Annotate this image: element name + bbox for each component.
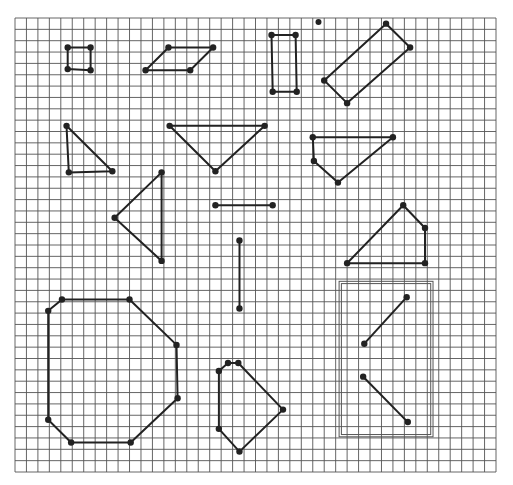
vertex-dot — [216, 426, 222, 432]
shapes-layer — [45, 19, 428, 455]
small-square-outline — [68, 48, 91, 71]
left-pointing-triangle — [111, 169, 164, 264]
vertex-dot — [87, 67, 93, 73]
parallelogram-outline — [146, 48, 214, 71]
vertex-dot — [59, 296, 65, 302]
vertex-dot — [292, 32, 298, 38]
frame-layer — [339, 281, 433, 436]
vertex-dot — [236, 305, 242, 311]
frame-inner — [341, 284, 430, 435]
right-triangle — [63, 123, 115, 176]
octagon — [45, 296, 181, 445]
vertex-dot — [210, 44, 216, 50]
vertex-dot — [236, 448, 242, 454]
vertex-dot — [261, 123, 267, 129]
vertex-dot — [269, 202, 275, 208]
vertex-dot — [68, 439, 74, 445]
stray-dot — [315, 19, 321, 25]
diagonal-segment-up-outline — [364, 297, 406, 344]
vertex-dot — [268, 32, 274, 38]
vertex-dot — [321, 77, 327, 83]
vertex-dot — [212, 168, 218, 174]
vertex-dot — [405, 419, 411, 425]
vertex-dot — [344, 100, 350, 106]
small-square — [64, 44, 93, 73]
vertex-dot — [165, 44, 171, 50]
vertex-dot — [173, 342, 179, 348]
vertex-dot — [142, 67, 148, 73]
vertex-dot — [335, 179, 341, 185]
parallelogram — [142, 44, 216, 73]
vertex-dot — [390, 134, 396, 140]
vertex-dot — [236, 237, 242, 243]
vertex-dot — [422, 225, 428, 231]
vertex-dot — [45, 308, 51, 314]
vertex-dot — [63, 123, 69, 129]
pentagon-upper-right-outline — [313, 137, 393, 182]
vertex-dot — [45, 417, 51, 423]
vertex-dot — [280, 406, 286, 412]
vertex-dot — [400, 202, 406, 208]
vertical-segment — [236, 237, 242, 311]
inverted-triangle-outline — [170, 126, 265, 171]
vertex-dot — [294, 89, 300, 95]
vertex-dot — [127, 439, 133, 445]
vertex-dot — [225, 360, 231, 366]
vertex-dot — [311, 158, 317, 164]
left-pointing-triangle-outline — [115, 172, 162, 261]
octagon-outline — [48, 300, 177, 443]
vertex-dot — [64, 44, 70, 50]
vertex-dot — [310, 134, 316, 140]
vertex-dot — [403, 294, 409, 300]
vertex-dot — [158, 258, 164, 264]
vertex-dot — [212, 202, 218, 208]
vertex-dot — [344, 260, 350, 266]
grid-canvas — [0, 0, 513, 485]
inverted-triangle — [166, 123, 267, 175]
vertex-dot — [407, 44, 413, 50]
pentagon-upper-right — [310, 134, 397, 186]
vertex-dot — [87, 44, 93, 50]
vertex-dot — [111, 215, 117, 221]
vertex-dot — [360, 373, 366, 379]
vertex-dot — [235, 360, 241, 366]
vertex-dot — [174, 395, 180, 401]
vertex-dot — [126, 296, 132, 302]
vertex-dot — [216, 368, 222, 374]
vertex-dot — [66, 169, 72, 175]
vertex-dot — [383, 20, 389, 26]
vertex-dot — [269, 89, 275, 95]
grid-drawing — [0, 0, 513, 485]
vertex-dot — [158, 169, 164, 175]
pentagon-bottom — [216, 360, 287, 455]
vertex-dot — [64, 66, 70, 72]
vertex-dot — [187, 67, 193, 73]
vertex-dot — [109, 168, 115, 174]
frame-outer — [339, 281, 433, 436]
vertex-dot — [361, 341, 367, 347]
vertex-dot — [166, 123, 172, 129]
grid-lines — [15, 18, 496, 472]
vertex-dot — [422, 260, 428, 266]
